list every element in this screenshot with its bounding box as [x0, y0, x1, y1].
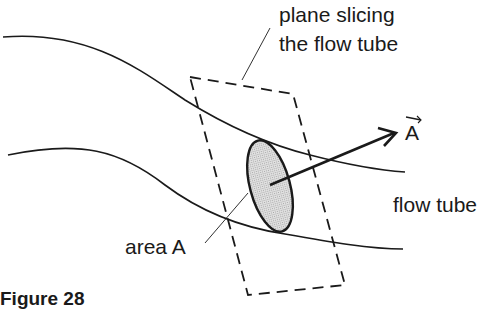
flow-tube-label: flow tube	[393, 194, 477, 215]
area-label: area A	[125, 236, 186, 257]
plane-label-line2: the flow tube	[279, 33, 398, 54]
area-label-leader	[205, 193, 248, 243]
figure-caption: Figure 28	[0, 288, 84, 310]
vector-label: A	[405, 122, 419, 143]
plane-label-leader	[242, 28, 270, 80]
area-vector-arrow	[270, 133, 394, 185]
plane-label-line1: plane slicing	[279, 4, 395, 25]
flow-tube-top-edge	[3, 36, 405, 172]
